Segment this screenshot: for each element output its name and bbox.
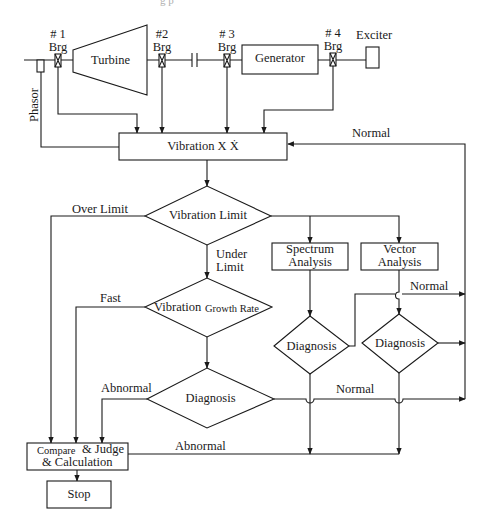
growth-rate-label-a: Vibration [154,301,201,314]
diagnosis-spectrum-label: Diagnosis [274,340,349,353]
edge-normal-bottom: Normal [336,383,374,396]
growth-rate-label-b: Growth Rate [205,302,259,315]
compare-label-c: & Calculation [42,456,112,469]
edge-fast: Fast [100,292,121,305]
phasor-sensor [37,60,44,72]
exciter-box [366,47,379,68]
bearing-2-label: Brg [150,41,174,54]
bearing-icon [159,54,165,67]
bearing-icon [55,54,61,67]
spectrum-label-2: Analysis [272,256,348,269]
bearing-1-label: Brg [46,41,70,54]
stop-label: Stop [47,488,111,501]
edge-abnormal-bottom: Abnormal [175,440,226,453]
exciter-label: Exciter [356,29,392,42]
vector-label-2: Analysis [361,256,438,269]
edge-abnormal-left: Abnormal [101,382,152,395]
bearing-icon [330,53,336,66]
caption-fragment: g p [160,0,174,6]
bearing-icon [224,54,230,67]
diagnosis-main-label: Diagnosis [147,392,274,405]
vibration-diagnosis-flowchart: g p # 1 Brg #2 Brg # 3 Brg # 4 Brg Turbi… [0,0,487,530]
bearing-4-label: Brg [321,40,345,53]
turbine-label: Turbine [91,54,130,67]
edge-normal-mid-right: Normal [410,280,448,293]
generator-label: Generator [242,52,318,65]
edge-normal-top: Normal [352,127,390,140]
edge-over-limit: Over Limit [72,203,128,216]
diagnosis-vector-label: Diagnosis [362,337,438,350]
vibration-limit-label: Vibration Limit [145,209,271,222]
phasor-label: Phasor [27,88,42,122]
vibration-box-label: Vibration X Ẋ [119,140,287,153]
bearing-3-label: Brg [215,41,239,54]
edge-under-limit-2: Limit [216,261,244,274]
